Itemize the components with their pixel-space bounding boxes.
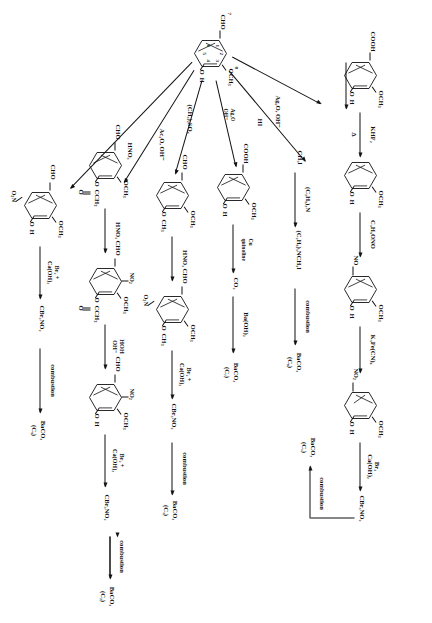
r5c-no2: NO2: [127, 388, 134, 399]
ring-number-2: 2: [218, 52, 223, 55]
r3-oh-o: O: [220, 203, 227, 208]
r5-ccch3: CCH3: [91, 189, 99, 206]
vanillic-acid-ring-1: [347, 60, 377, 86]
reagent-oh-minus: OH⁻: [111, 340, 118, 353]
r5c-cho: CHO: [113, 356, 120, 371]
reagent-combustion-r6: combustion: [48, 364, 55, 397]
r1b-oh-o: O: [347, 191, 354, 196]
arrow-baoh2: [232, 296, 233, 352]
arrow-br2-caoh2-r5: [104, 434, 105, 486]
r6-oh-o: O: [27, 221, 34, 226]
r4-cho: CHO: [180, 154, 187, 169]
arrow-khf2: [359, 112, 360, 156]
arrow-combustion-r6: [39, 348, 40, 412]
ring-number-4: 4: [205, 59, 210, 62]
branch-ray-hi: [228, 70, 305, 161]
r1d-oh-o: O: [347, 421, 354, 426]
arrow-combustion-r5: [109, 536, 110, 578]
r5-cho: CHO: [113, 124, 120, 139]
ring-number-6: 6: [205, 44, 210, 47]
branch-ray-ag2o-oh: [215, 80, 236, 166]
r4b-och3: OCH3: [187, 324, 195, 341]
reagent-ac2o-oh: Ac₂O, OH⁻: [157, 128, 164, 160]
arrow-combustion-r1: [309, 466, 310, 518]
r5c-och3: OCH3: [120, 412, 128, 429]
reagent-hno3-branch: HNO₃: [125, 142, 132, 159]
scheme-page: 1 2 3 4 5 6 CHO 7 OCH3 8 O H Ag₂O, OH⁻ H…: [0, 0, 432, 623]
r1-cooh: COOH: [368, 31, 375, 51]
r4-o: O: [159, 211, 166, 216]
r6-oh-h: H: [27, 229, 34, 234]
r5b-no2: NO2: [127, 272, 134, 283]
product-baco3-c1: BaCO₃: [308, 437, 315, 457]
reagent-caoh2-r5: Ca(OH)₂: [111, 448, 118, 471]
r1d-och3: OCH3: [375, 420, 383, 437]
product-baco3-c2: BaCO₃: [107, 586, 114, 606]
arrow-hydrolysis: [104, 324, 105, 368]
arrow-br2-caoh2-r4: [171, 350, 172, 398]
vanillin-ring: [197, 38, 227, 64]
r1b-och3: OCH3: [375, 190, 383, 207]
reagent-combustion-r4: combustion: [180, 452, 187, 485]
product-baco3-c7-carbon: (C₇): [222, 366, 229, 377]
reagent-ag2o-oh-top: Ag₂O, OH⁻: [273, 95, 280, 128]
nitrovanillin-ring-r6: [27, 190, 57, 216]
vanillic-acid-ring-3: [220, 172, 250, 198]
reagent-combustion-r5: combustion: [117, 540, 124, 573]
reagent-khf2: KHF₂: [368, 126, 375, 142]
reaction-canvas: 1 2 3 4 5 6 CHO 7 OCH3 8 O H Ag₂O, OH⁻ H…: [0, 0, 432, 623]
arrow-k3fecn6: [359, 326, 360, 372]
nitrovanillin-ring-r5: [92, 382, 122, 408]
reagent-combustion-r1: combustion: [317, 477, 324, 510]
arrow-cu-quinoline: [232, 224, 233, 272]
reagent-et3n: (C₂H₅)₃N: [303, 187, 310, 212]
reagent-caoh2-r6: Ca(OH)₂: [46, 260, 53, 283]
product-baco3-c2-carbon: (C₂): [98, 590, 105, 601]
vanillin-och3-number: 8: [233, 66, 238, 69]
arrow-hno3-r5: [104, 208, 105, 252]
product-baco3-c3: BaCO₃: [170, 500, 177, 520]
r5-cbr3no2: CBr₃NO₂: [102, 494, 109, 520]
r5-och3: OCH3: [120, 180, 128, 197]
reagent-baoh2: Ba(OH)₂: [241, 312, 248, 336]
veratraldehyde-ring: [159, 180, 189, 206]
r1-oh-h: H: [347, 99, 354, 104]
arrow-combustion-r2: [294, 288, 295, 344]
ring-number-1: 1: [214, 44, 219, 47]
r1-cbr3no2: CBr₃NO₂: [357, 495, 364, 521]
r4b-no2: O2N: [141, 294, 148, 305]
r5c-oh-h: H: [92, 421, 99, 426]
reagent-c3h5ono: C₃H₅ONO: [368, 220, 375, 249]
r4-ch3: CH3: [158, 219, 166, 231]
acetylvanillin-ring: [92, 150, 122, 176]
r1c-no: NO: [351, 255, 358, 265]
product-baco3-c5: BaCO₃: [38, 420, 45, 440]
r1d-oh-h: H: [347, 429, 354, 434]
ring-number-3: 3: [214, 59, 219, 62]
product-baco3-c9: BaCO₃: [294, 352, 301, 372]
arrow-nitrosation: [359, 212, 360, 256]
product-baco3-c3-carbon: (C₃): [161, 504, 168, 515]
r5b-ccch3: CCH3: [91, 305, 99, 322]
r1-och3: OCH3: [375, 90, 383, 107]
reagent-caoh2-r4: Ca(OH)₂: [178, 362, 185, 385]
reagent-oh-b: OH⁻: [221, 108, 227, 120]
nitroveratraldehyde-ring: [159, 294, 189, 320]
reagent-combustion-r2: combustion: [303, 300, 310, 333]
r2-et3nch3i: (C₂H₅)₃NCH₃I: [294, 230, 301, 269]
r1-down-line: [310, 517, 354, 518]
guaiacol-ring: [347, 160, 377, 186]
r6-cbr3no2: CBr₃NO₂: [37, 305, 44, 331]
reagent-me2so4: (CH₃)₂SO₄: [185, 104, 192, 133]
r1-oh-o: O: [347, 91, 354, 96]
r1c-och3: OCH3: [375, 304, 383, 321]
r3-co2: CO₂: [231, 277, 238, 289]
r5b-o: O: [92, 297, 99, 302]
reagent-hi: HI: [255, 118, 262, 126]
product-baco3-c1-carbon: (C₁): [299, 441, 306, 452]
reagent-caoh2-r1: Ca(OH)₂: [365, 454, 372, 479]
ring-number-5: 5: [201, 52, 206, 55]
r5-carbonyl-o: O: [76, 189, 83, 194]
arrow-hno3-r4: [171, 236, 172, 280]
nitroacetylvanillin-ring: [92, 266, 122, 292]
